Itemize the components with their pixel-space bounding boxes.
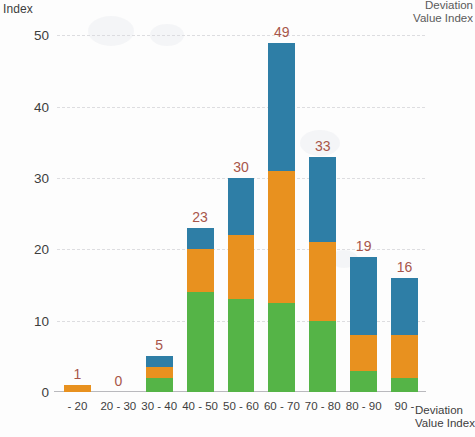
bar-segment-orange [309, 242, 336, 320]
bar: 3370 - 80 [309, 157, 336, 392]
x-axis-tick-label: 90 - [395, 400, 415, 412]
bar-value-label: 0 [114, 373, 122, 389]
bar-segment-green [187, 292, 214, 392]
bar: 530 - 40 [146, 356, 173, 392]
bar-segment-blue [187, 228, 214, 249]
gridline [57, 107, 425, 108]
bar-segment-green [350, 371, 377, 392]
y-axis-tick-label: 50 [34, 28, 49, 43]
x-axis-tick-label: 70 - 80 [305, 400, 341, 412]
bar-value-label: 23 [192, 209, 208, 225]
bar-segment-orange [350, 335, 377, 371]
x-axis-tick-label: 60 - 70 [264, 400, 300, 412]
bar-segment-green [309, 321, 336, 392]
x-axis-tick-label: 40 - 50 [182, 400, 218, 412]
bar: 1980 - 90 [350, 257, 377, 392]
bar-value-label: 1 [74, 366, 82, 382]
bar-value-label: 49 [274, 24, 290, 40]
bar-segment-green [268, 303, 295, 392]
bar-segment-blue [228, 178, 255, 235]
bar-chart: Index Deviation Value Index Deviation Va… [0, 0, 475, 437]
bar-value-label: 5 [155, 337, 163, 353]
bar-segment-orange [228, 235, 255, 299]
bar: 3050 - 60 [228, 178, 255, 392]
bar-segment-orange [64, 385, 91, 392]
y-axis-tick-label: 10 [34, 313, 49, 328]
bar-value-label: 33 [315, 138, 331, 154]
x-axis-title: Deviation Value Index [415, 404, 475, 430]
bar-value-label: 16 [397, 259, 413, 275]
bar-segment-orange [268, 171, 295, 303]
gridline [57, 35, 425, 36]
bar: 2340 - 50 [187, 228, 214, 392]
bar-segment-orange [391, 335, 418, 378]
x-axis-tick-label: 50 - 60 [223, 400, 259, 412]
bar-segment-green [228, 299, 255, 392]
bar-segment-green [391, 378, 418, 392]
y-axis-tick-label: 30 [34, 171, 49, 186]
x-axis-tick-label: 80 - 90 [346, 400, 382, 412]
bar: 4960 - 70 [268, 43, 295, 392]
bar-value-label: 30 [233, 159, 249, 175]
plot-area: 01020304050 1- 20020 - 30530 - 402340 - … [57, 14, 425, 392]
x-axis-tick-label: 30 - 40 [141, 400, 177, 412]
bar-segment-blue [350, 257, 377, 335]
x-axis-tick-label: 20 - 30 [100, 400, 136, 412]
x-axis-tick-label: - 20 [68, 400, 88, 412]
y-axis-tick-label: 0 [41, 385, 49, 400]
bar-segment-green [146, 378, 173, 392]
bar-segment-orange [146, 367, 173, 378]
bar-segment-blue [309, 157, 336, 243]
y-axis-tick-label: 20 [34, 242, 49, 257]
bar: 020 - 30 [105, 391, 132, 392]
bar-segment-orange [187, 249, 214, 292]
bar: 1690 - [391, 278, 418, 392]
y-axis-tick-label: 40 [34, 99, 49, 114]
y-axis-title: Index [3, 2, 33, 16]
bar-segment-blue [146, 356, 173, 367]
bar: 1- 20 [64, 385, 91, 392]
bar-segment-blue [268, 43, 295, 171]
bar-segment-blue [391, 278, 418, 335]
bar-value-label: 19 [356, 238, 372, 254]
